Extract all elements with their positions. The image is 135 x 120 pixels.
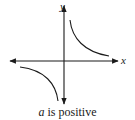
caption: a is positive <box>0 106 135 118</box>
x-axis-label: x <box>121 55 126 66</box>
y-axis-label: y <box>60 1 65 12</box>
caption-text: is positive <box>44 105 96 119</box>
hyperbola-graph <box>0 0 135 120</box>
hyperbola-branch-quadrant-3 <box>20 67 58 101</box>
hyperbola-branch-quadrant-1 <box>70 20 109 56</box>
